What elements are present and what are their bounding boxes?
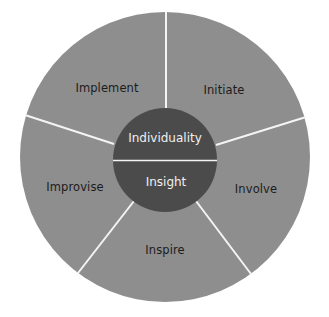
core-label-individuality: Individuality <box>128 131 202 145</box>
segment-label-implement: Implement <box>75 81 138 95</box>
core-label-insight: Insight <box>146 175 187 189</box>
segment-label-inspire: Inspire <box>145 243 184 257</box>
segmented-circle-diagram <box>0 0 329 317</box>
segment-label-improvise: Improvise <box>46 180 103 194</box>
segment-label-initiate: Initiate <box>203 83 244 97</box>
segment-label-involve: Involve <box>235 182 277 196</box>
